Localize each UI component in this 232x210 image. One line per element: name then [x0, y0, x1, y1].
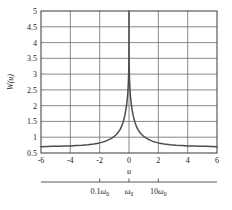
- y-tick-label: 2: [33, 102, 37, 111]
- y-tick-label: 2.5: [27, 86, 37, 95]
- secondary-label-coefficient: 10: [150, 187, 158, 196]
- y-tick-label: 3.5: [27, 54, 37, 63]
- y-axis-title: W(u): [6, 74, 15, 90]
- omega-subscript: 0: [164, 191, 167, 197]
- y-tick-label: 1.5: [27, 117, 37, 126]
- x-tick-label: 4: [186, 156, 190, 165]
- y-tick-label: 0.5: [27, 149, 37, 158]
- x-tick-label: 0: [127, 156, 131, 165]
- y-tick-label: 1: [33, 133, 37, 142]
- x-tick-label: -6: [38, 156, 45, 165]
- x-tick-label: -4: [67, 156, 74, 165]
- y-tick-label: 5: [33, 7, 37, 16]
- x-axis-title: u: [127, 167, 131, 176]
- y-tick-label: 4.5: [27, 23, 37, 32]
- x-tick-label: -2: [96, 156, 103, 165]
- omega-subscript: 0: [130, 191, 133, 197]
- y-tick-label: 3: [33, 70, 37, 79]
- x-tick-label: 2: [156, 156, 160, 165]
- omega-subscript: 0: [106, 191, 109, 197]
- x-tick-label: 6: [215, 156, 219, 165]
- y-tick-label: 4: [33, 39, 37, 48]
- secondary-label-coefficient: 0.1: [90, 187, 100, 196]
- chart-figure: 5 4.5 4 3.5 3 2.5 2 1.5 1 0.5 W(u) -6: [0, 0, 232, 210]
